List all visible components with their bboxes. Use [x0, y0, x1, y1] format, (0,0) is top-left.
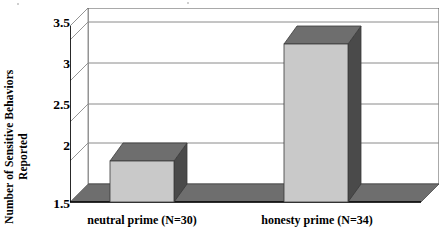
- bar-chart: Number of Sensitive Behaviors Reported 3…: [0, 0, 439, 238]
- y-axis-tick-labels: 3.5 3 2.5 2 1.5: [38, 0, 70, 238]
- y-tick-label-3: 3: [40, 57, 70, 71]
- bar-neutral-prime: [110, 143, 187, 202]
- y-tick-label-1-5: 1.5: [40, 197, 70, 211]
- scan-artifact-right: [187, 2, 189, 4]
- bar-honesty-prime-top: [284, 26, 361, 44]
- x-tick-label-honesty-prime: honesty prime (N=34): [245, 213, 389, 228]
- y-tick-label-2-5: 2.5: [40, 98, 70, 112]
- y-axis-title-line-2: Reported: [17, 133, 29, 180]
- plot-area: [70, 8, 439, 228]
- y-tick-label-2: 2: [40, 139, 70, 153]
- bar-honesty-prime-front: [284, 44, 348, 202]
- y-tick-label-3-5: 3.5: [40, 16, 70, 30]
- x-tick-label-neutral-prime: neutral prime (N=30): [70, 213, 214, 228]
- plot-svg: [70, 8, 439, 228]
- bar-honesty-prime-side: [348, 26, 361, 202]
- y-axis-title-line-1: Number of Sensitive Behaviors: [3, 70, 15, 224]
- bar-honesty-prime: [284, 26, 361, 202]
- bar-neutral-prime-front: [110, 161, 174, 202]
- x-axis-tick-labels: neutral prime (N=30) honesty prime (N=34…: [70, 213, 439, 238]
- bar-neutral-prime-top: [110, 143, 187, 161]
